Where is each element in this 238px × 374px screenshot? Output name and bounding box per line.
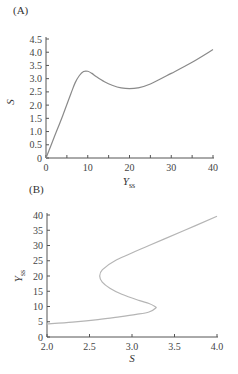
y-tick-label: 15: [33, 286, 43, 297]
x-tick-label: 10: [83, 162, 93, 173]
y-tick-label: 10: [33, 301, 43, 312]
y-tick-label: 30: [33, 240, 43, 251]
y-tick-label: 5: [38, 316, 43, 327]
x-tick-label: 2.0: [41, 341, 54, 352]
a-x-axis-title: Yss: [123, 175, 135, 190]
data-line: [47, 216, 217, 324]
b-y-axis-title: Yss: [12, 270, 27, 282]
y-tick-label: 0.5: [30, 139, 43, 150]
y-tick-label: 2.5: [30, 86, 43, 97]
charts-canvas: 00.51.01.52.02.53.03.54.04.5010203040SYs…: [0, 0, 238, 374]
a-y-axis-title: S: [4, 99, 16, 105]
x-tick-label: 3.5: [168, 341, 181, 352]
b-x-axis-title: S: [129, 352, 135, 364]
y-tick-label: 1.5: [30, 113, 43, 124]
x-tick-label: 3.0: [126, 341, 139, 352]
y-tick-label: 20: [33, 271, 43, 282]
y-tick-label: 2.0: [30, 100, 43, 111]
x-tick-label: 0: [44, 162, 49, 173]
x-tick-label: 40: [208, 162, 218, 173]
y-tick-label: 4.0: [30, 47, 43, 58]
x-tick-label: 20: [125, 162, 135, 173]
chart-b: 05101520253035402.02.53.03.54.0YssS: [12, 210, 223, 365]
y-tick-label: 25: [33, 255, 43, 266]
x-tick-label: 4.0: [211, 341, 224, 352]
x-tick-label: 30: [166, 162, 176, 173]
y-tick-label: 4.5: [30, 34, 43, 45]
y-tick-label: 0: [37, 153, 42, 164]
y-tick-label: 35: [33, 225, 43, 236]
x-tick-label: 2.5: [83, 341, 96, 352]
y-tick-label: 3.0: [30, 73, 43, 84]
y-tick-label: 40: [33, 210, 43, 221]
chart-a: 00.51.01.52.02.53.03.54.04.5010203040SYs…: [4, 34, 218, 191]
y-tick-label: 1.0: [30, 126, 43, 137]
data-line: [46, 50, 213, 158]
y-tick-label: 3.5: [30, 60, 43, 71]
